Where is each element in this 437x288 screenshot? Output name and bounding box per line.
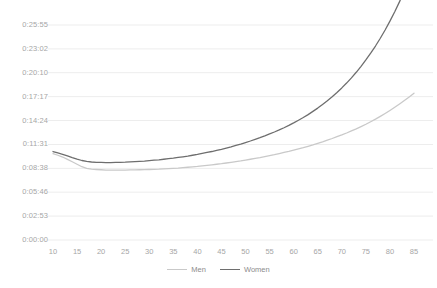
- x-axis-tick-label: 40: [187, 247, 207, 256]
- legend-item[interactable]: Women: [220, 265, 270, 274]
- y-axis-tick-label: 0:11:31: [4, 139, 48, 148]
- x-axis-tick-label: 10: [43, 247, 63, 256]
- x-axis-tick-label: 15: [67, 247, 87, 256]
- legend-swatch-icon: [167, 269, 187, 270]
- y-axis-tick-label: 0:17:17: [4, 92, 48, 101]
- y-axis-tick-label: 0:25:55: [4, 20, 48, 29]
- x-axis-tick-label: 25: [115, 247, 135, 256]
- x-axis-tick-label: 85: [404, 247, 424, 256]
- x-axis-tick-label: 70: [332, 247, 352, 256]
- x-axis-tick-label: 80: [380, 247, 400, 256]
- y-axis-tick-label: 0:00:00: [4, 235, 48, 244]
- x-axis-tick-label: 45: [211, 247, 231, 256]
- y-axis-tick-label: 0:02:53: [4, 211, 48, 220]
- y-axis-tick-label: 0:14:24: [4, 116, 48, 125]
- legend-swatch-icon: [220, 269, 240, 270]
- y-axis-tick-label: 0:20:10: [4, 68, 48, 77]
- x-axis-tick-label: 75: [356, 247, 376, 256]
- x-axis-tick-label: 50: [236, 247, 256, 256]
- x-axis-tick-label: 30: [139, 247, 159, 256]
- y-axis-tick-label: 0:05:46: [4, 187, 48, 196]
- line-chart: 0:00:000:02:530:05:460:08:380:11:310:14:…: [0, 0, 437, 288]
- x-axis-tick-label: 60: [284, 247, 304, 256]
- series-line-women: [53, 0, 414, 163]
- chart-canvas: [0, 0, 437, 288]
- x-axis-tick-label: 35: [163, 247, 183, 256]
- chart-legend: MenWomen: [0, 265, 437, 274]
- y-axis-tick-label: 0:23:02: [4, 44, 48, 53]
- series-line-men: [53, 93, 414, 170]
- legend-label: Women: [244, 265, 270, 274]
- y-axis-tick-label: 0:08:38: [4, 163, 48, 172]
- legend-label: Men: [191, 265, 206, 274]
- legend-item[interactable]: Men: [167, 265, 206, 274]
- x-axis-tick-label: 65: [308, 247, 328, 256]
- x-axis-tick-label: 55: [260, 247, 280, 256]
- x-axis-tick-label: 20: [91, 247, 111, 256]
